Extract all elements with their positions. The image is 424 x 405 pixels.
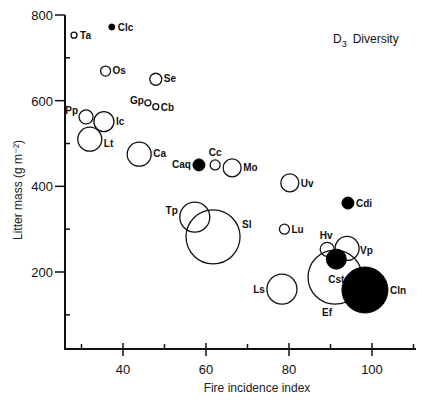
data-point-ca (127, 142, 151, 166)
chart-title-main: D (333, 32, 342, 46)
data-point-ta (71, 32, 77, 38)
bubble-marker (79, 110, 93, 124)
x-tick-label: 80 (282, 362, 296, 377)
bubble-scatter-chart: 200400600800 Litter mass (g m⁻²) 4060801… (0, 0, 424, 405)
point-label: Lu (291, 224, 303, 235)
bubble-marker (326, 249, 346, 269)
y-tick-label: 600 (31, 94, 53, 109)
point-label: Clc (118, 22, 134, 33)
data-point-cb (153, 104, 159, 110)
y-tick-label: 200 (31, 265, 53, 280)
data-point-pp (79, 110, 93, 124)
data-point-mo (223, 159, 241, 177)
data-point-cdi (342, 197, 354, 209)
bubble-marker (223, 159, 241, 177)
data-point-clc (109, 24, 115, 30)
point-label: Se (164, 73, 177, 84)
data-point-cln (342, 267, 388, 313)
chart-title: D3Diversity (333, 32, 399, 49)
bubble-marker (78, 127, 102, 151)
point-label: Ls (253, 284, 265, 295)
y-tick-label: 400 (31, 179, 53, 194)
x-tick-label: 100 (361, 362, 383, 377)
data-point-ic (94, 112, 114, 132)
y-axis: 200400600800 Litter mass (g m⁻²) (11, 8, 70, 350)
point-label: Cln (390, 285, 406, 296)
point-label: Os (113, 65, 127, 76)
data-point-gp (145, 100, 151, 106)
point-label: Ef (322, 307, 333, 318)
point-label: Tp (166, 205, 178, 216)
bubble-marker (342, 267, 388, 313)
bubble-marker (186, 210, 240, 264)
data-point-sl (186, 210, 240, 264)
y-tick-label: 800 (31, 8, 53, 23)
bubble-marker (145, 100, 151, 106)
point-label: Mo (243, 162, 257, 173)
data-point-ls (267, 274, 297, 304)
data-point-se (150, 73, 162, 85)
data-points: TaClcOsSeGpCbPpIcLtCaCaqCcMoUvCdiTpSlLuH… (65, 22, 406, 318)
bubble-marker (71, 32, 77, 38)
bubble-marker (127, 142, 151, 166)
point-label: Vp (360, 245, 373, 256)
chart-title-subscript: 3 (342, 39, 347, 49)
x-tick-label: 60 (199, 362, 213, 377)
point-label: Pp (65, 105, 78, 116)
bubble-marker (150, 73, 162, 85)
x-axis: 406080100 Fire incidence index (64, 343, 416, 395)
point-label: Cst (328, 274, 345, 285)
point-label: Gp (130, 95, 144, 106)
point-label: Caq (172, 159, 191, 170)
bubble-marker (210, 160, 220, 170)
chart-title-rest: Diversity (353, 32, 399, 46)
x-tick-label: 40 (116, 362, 130, 377)
point-label: Cc (209, 147, 222, 158)
data-point-lu (279, 224, 289, 234)
data-point-cst (326, 249, 346, 269)
bubble-marker (109, 24, 115, 30)
point-label: Uv (301, 178, 314, 189)
data-point-lt (78, 127, 102, 151)
data-point-cc (210, 160, 220, 170)
bubble-marker (279, 224, 289, 234)
x-axis-title: Fire incidence index (204, 381, 311, 395)
point-label: Lt (104, 138, 114, 149)
data-point-uv (281, 174, 299, 192)
point-label: Ic (116, 116, 125, 127)
bubble-marker (101, 66, 111, 76)
point-label: Cb (161, 102, 174, 113)
point-label: Ta (80, 30, 91, 41)
point-label: Cdi (356, 198, 372, 209)
bubble-marker (342, 197, 354, 209)
y-axis-title: Litter mass (g m⁻²) (11, 140, 25, 240)
data-point-os (101, 66, 111, 76)
bubble-marker (193, 159, 205, 171)
bubble-marker (94, 112, 114, 132)
bubble-marker (153, 104, 159, 110)
point-label: Ca (153, 148, 166, 159)
point-label: Sl (242, 219, 252, 230)
bubble-marker (281, 174, 299, 192)
bubble-marker (267, 274, 297, 304)
point-label: Hv (320, 230, 333, 241)
data-point-caq (193, 159, 205, 171)
